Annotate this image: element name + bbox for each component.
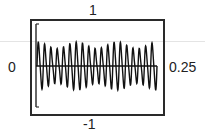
left-label: 0	[8, 60, 16, 74]
right-label: 0.25	[169, 60, 196, 74]
bottom-label: -1	[83, 117, 95, 131]
top-label: 1	[89, 3, 97, 17]
